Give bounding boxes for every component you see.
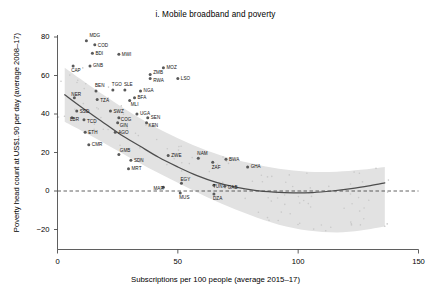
data-point	[111, 88, 114, 91]
data-point-label: MWI	[122, 52, 132, 57]
data-point	[82, 118, 85, 121]
data-point-label: ZMB	[153, 70, 163, 75]
data-point	[129, 159, 132, 162]
data-point	[146, 116, 149, 119]
data-point	[212, 192, 215, 195]
data-point	[109, 110, 112, 113]
data-point-label: AGO	[118, 130, 128, 135]
data-point	[135, 113, 138, 116]
data-point-label: MUS	[179, 195, 189, 200]
data-point-label: GMB	[120, 148, 131, 153]
x-tick-label: 0	[43, 257, 73, 266]
data-point	[211, 161, 214, 164]
data-point-label: DZA	[213, 196, 222, 201]
data-point	[117, 153, 120, 156]
data-point	[72, 64, 75, 67]
data-point	[223, 185, 226, 188]
data-point-label: LBR	[70, 117, 79, 122]
data-point-label: MLI	[131, 102, 139, 107]
data-point-label: KEN	[149, 123, 159, 128]
data-point-label: ETH	[88, 130, 97, 135]
data-point-label: NGA	[144, 88, 154, 93]
data-point	[75, 110, 78, 113]
data-point-label: COG	[121, 117, 132, 122]
data-point-label: NAM	[197, 151, 207, 156]
y-tick-label: 60	[24, 71, 50, 80]
data-point	[224, 158, 227, 161]
data-point	[180, 182, 183, 185]
data-point-label: BEN	[95, 83, 105, 88]
data-point-label: RWA	[153, 78, 164, 83]
data-point-label: EGY	[180, 177, 190, 182]
data-point	[123, 88, 126, 91]
data-point-label: NER	[71, 92, 81, 97]
x-tick-label: 50	[163, 257, 193, 266]
data-point-label: SDN	[134, 158, 144, 163]
data-point	[117, 53, 120, 56]
data-point-label: TUN	[213, 184, 223, 189]
data-point-label: TGO	[112, 82, 122, 87]
data-point-label: SWZ	[113, 109, 123, 114]
data-point-label: SLE	[124, 82, 133, 87]
data-point-label: GHA	[251, 164, 261, 169]
data-point	[96, 98, 99, 101]
data-point	[127, 167, 130, 170]
data-point-label: MOZ	[166, 65, 176, 70]
data-point-label: MAR	[153, 186, 163, 191]
data-point-label: BDI	[95, 51, 103, 56]
y-tick-label: 40	[24, 109, 50, 118]
data-point	[149, 73, 152, 76]
x-tick-label: 150	[404, 257, 431, 266]
data-point	[95, 89, 98, 92]
data-point-label: SEN	[151, 115, 161, 120]
data-point	[85, 39, 88, 42]
data-point-label: BFA	[138, 95, 147, 100]
data-point-label: UGA	[140, 111, 150, 116]
data-point-label: BWA	[229, 157, 239, 162]
data-point-label: MDG	[89, 33, 100, 38]
data-point	[87, 143, 90, 146]
data-point-label: TZA	[100, 98, 109, 103]
data-point-label: CMR	[92, 142, 103, 147]
data-point-label: CAP	[71, 68, 81, 73]
data-point	[91, 52, 94, 55]
data-point	[197, 157, 200, 160]
chart-figure: i. Mobile broadband and poverty Poverty …	[0, 0, 431, 305]
data-point	[88, 64, 91, 67]
data-point-label: ZWE	[171, 153, 181, 158]
data-point	[114, 131, 117, 134]
data-point-label: GAB	[228, 185, 238, 190]
data-point	[176, 77, 179, 80]
data-point	[133, 96, 136, 99]
data-point-label: COD	[98, 43, 108, 48]
data-point	[149, 77, 152, 80]
x-tick-label: 100	[283, 257, 313, 266]
y-tick-label: 20	[24, 148, 50, 157]
data-point-label: SSD	[80, 109, 90, 114]
y-tick-label: 0	[24, 186, 50, 195]
data-point	[84, 131, 87, 134]
data-point	[179, 191, 182, 194]
data-point-label: ZAF	[212, 165, 221, 170]
data-point-label: TCD	[87, 119, 97, 124]
data-point	[139, 89, 142, 92]
y-tick-label: −20	[24, 225, 50, 234]
data-point-label: GNB	[93, 63, 103, 68]
y-tick-label: 80	[24, 32, 50, 41]
data-point-label: GIN	[120, 123, 128, 128]
data-point-label: MRT	[131, 166, 141, 171]
data-point-label: LSO	[181, 76, 190, 81]
data-point	[93, 43, 96, 46]
data-point	[162, 66, 165, 69]
confidence-band	[65, 68, 385, 233]
data-point	[167, 154, 170, 157]
data-point	[246, 165, 249, 168]
